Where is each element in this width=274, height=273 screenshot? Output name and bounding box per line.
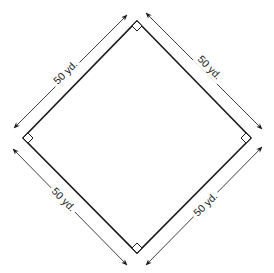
right-angle-marker-top xyxy=(132,21,142,31)
square-outline xyxy=(23,21,251,253)
right-angle-marker-bottom xyxy=(132,243,142,253)
square-field-diagram: 50 yd. 50 yd. 50 yd. 50 yd. xyxy=(0,0,274,273)
right-angle-marker-right xyxy=(241,133,251,143)
right-angle-marker-left xyxy=(23,133,33,143)
